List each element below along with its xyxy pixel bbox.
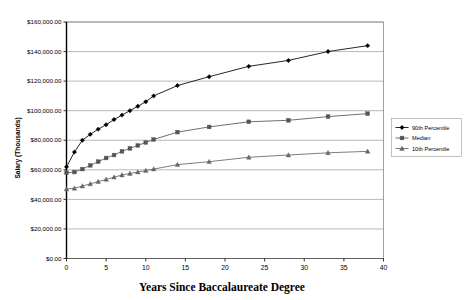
data-point-marker [120, 113, 124, 117]
series-line [67, 46, 368, 167]
series-line [67, 151, 368, 189]
x-tick-label: 10 [142, 264, 150, 271]
y-tick-label: $40,000.00 [31, 196, 63, 203]
y-tick-label: $0.00 [46, 255, 62, 262]
data-point-marker [96, 127, 100, 131]
y-tick-label: $100,000.00 [27, 107, 62, 114]
gridlines-group [67, 22, 384, 259]
data-point-marker [80, 167, 84, 171]
y-tick-label: $120,000.00 [27, 77, 62, 84]
y-tick-label: $80,000.00 [31, 136, 63, 143]
data-point-marker [96, 160, 100, 164]
data-point-marker [128, 146, 132, 150]
y-tick-label: $140,000.00 [27, 48, 62, 55]
data-point-marker [112, 153, 116, 157]
data-point-marker [366, 112, 370, 116]
x-axis-title-group: Years Since Baccalaureate Degree [139, 281, 305, 294]
salary-line-chart: $0.00$20,000.00$40,000.00$60,000.00$80,0… [0, 0, 471, 300]
y-tick-label: $160,000.00 [27, 18, 62, 25]
x-tick-label: 25 [261, 264, 269, 271]
y-tick-label: $60,000.00 [31, 166, 63, 173]
x-tick-label: 40 [380, 264, 388, 271]
series-1 [64, 43, 370, 169]
chart-svg: $0.00$20,000.00$40,000.00$60,000.00$80,0… [0, 0, 471, 300]
y-axis-title-group: Salary (Thousands) [14, 117, 22, 178]
data-point-marker [128, 108, 132, 112]
data-point-marker [286, 58, 290, 62]
data-point-marker [104, 156, 108, 160]
data-point-marker [136, 144, 140, 148]
data-point-marker [136, 104, 140, 108]
data-point-marker [247, 64, 251, 68]
data-point-marker [104, 123, 108, 127]
data-point-marker [287, 118, 291, 122]
data-point-marker [247, 120, 251, 124]
data-point-marker [144, 141, 148, 145]
x-axis-title: Years Since Baccalaureate Degree [139, 281, 305, 294]
x-tick-label: 20 [221, 264, 229, 271]
data-point-marker [64, 165, 68, 169]
data-point-marker [365, 43, 369, 47]
data-point-marker [400, 136, 404, 140]
x-tick-label: 0 [65, 264, 69, 271]
y-axis-title: Salary (Thousands) [14, 117, 22, 178]
series-line [67, 114, 368, 173]
legend-label: 90th Percentile [412, 125, 449, 131]
data-point-marker [176, 130, 180, 134]
series-group [64, 43, 370, 190]
data-point-marker [73, 170, 77, 174]
data-point-marker [65, 171, 69, 175]
data-point-marker [326, 49, 330, 53]
data-point-marker [120, 149, 124, 153]
legend: 90th PercentileMedian10th Percentile [392, 119, 462, 157]
x-axis-group: 0510152025303540 [65, 259, 388, 272]
legend-label: 10th Percentile [412, 146, 449, 152]
data-point-marker [112, 117, 116, 121]
data-point-marker [88, 163, 92, 167]
legend-label: Median [412, 135, 430, 141]
x-tick-label: 15 [182, 264, 190, 271]
y-tick-label: $20,000.00 [31, 225, 63, 232]
x-tick-label: 30 [300, 264, 308, 271]
data-point-marker [152, 138, 156, 142]
y-axis-group: $0.00$20,000.00$40,000.00$60,000.00$80,0… [27, 18, 66, 262]
x-tick-label: 35 [340, 264, 348, 271]
x-tick-label: 5 [104, 264, 108, 271]
data-point-marker [207, 125, 211, 129]
series-2 [65, 112, 370, 175]
data-point-marker [326, 115, 330, 119]
data-point-marker [72, 150, 76, 154]
data-point-marker [175, 83, 179, 87]
data-point-marker [207, 74, 211, 78]
